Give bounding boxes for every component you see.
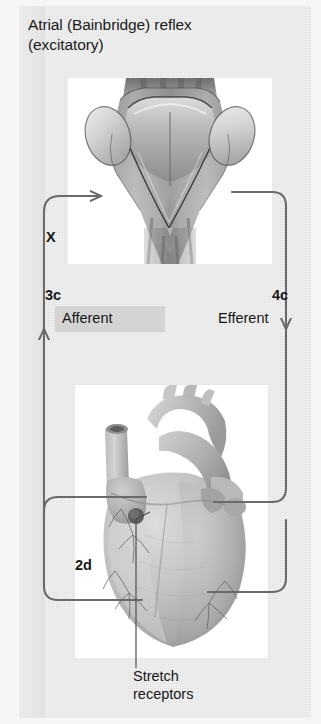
label-receptor-node: 2d [75,557,92,573]
figure-root: Atrial (Bainbridge) reflex (excitatory) [0,0,321,724]
label-afferent-node: 3c [45,287,61,303]
label-efferent-node: 4c [272,287,288,303]
afferent-pathway [44,196,146,600]
label-vagus-nerve: X [46,229,56,245]
label-afferent: Afferent [62,310,113,326]
caption-line-2: receptors [133,686,273,704]
efferent-pathway [208,192,286,592]
stretch-receptor-leader-line [136,512,150,668]
reflex-pathway-diagram [0,0,321,724]
stretch-receptors-caption: Stretch receptors [133,668,273,703]
label-efferent: Efferent [218,310,269,326]
caption-line-1: Stretch [133,668,273,686]
